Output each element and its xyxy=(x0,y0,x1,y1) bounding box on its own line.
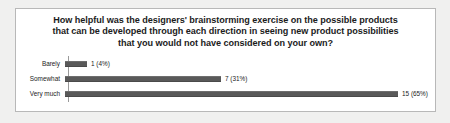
category-label-barely: Barely xyxy=(16,60,64,67)
bar-track: 7 (31%) xyxy=(64,71,435,86)
chart-title-line-1: How helpful was the designers' brainstor… xyxy=(28,15,423,26)
chart-card: How helpful was the designers' brainstor… xyxy=(15,8,436,112)
chart-title-line-3: that you would not have considered on yo… xyxy=(28,38,423,49)
bar-value-barely: 1 (4%) xyxy=(87,60,110,67)
bar-row: Very much 15 (65%) xyxy=(16,86,435,101)
bar-rows: Barely 1 (4%) Somewhat 7 (31%) Very much xyxy=(16,56,435,101)
bar-row: Barely 1 (4%) xyxy=(16,56,435,71)
page-background: How helpful was the designers' brainstor… xyxy=(0,0,450,123)
bar-very-much xyxy=(65,91,398,97)
bar-value-very-much: 15 (65%) xyxy=(398,90,428,97)
bar-track: 1 (4%) xyxy=(64,56,435,71)
category-label-very-much: Very much xyxy=(16,90,64,97)
chart-title-line-2: that can be developed through each direc… xyxy=(28,26,423,37)
bar-track: 15 (65%) xyxy=(64,86,435,101)
category-label-somewhat: Somewhat xyxy=(16,75,64,82)
chart-title: How helpful was the designers' brainstor… xyxy=(16,9,435,49)
bar-barely xyxy=(65,61,87,67)
bar-somewhat xyxy=(65,76,221,82)
bar-row: Somewhat 7 (31%) xyxy=(16,71,435,86)
plot-area: Barely 1 (4%) Somewhat 7 (31%) Very much xyxy=(16,56,435,104)
bar-value-somewhat: 7 (31%) xyxy=(221,75,247,82)
